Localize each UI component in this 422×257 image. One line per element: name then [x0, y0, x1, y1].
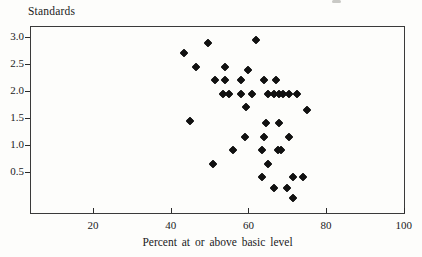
y-axis-tick-label: 1.0	[0, 138, 24, 150]
x-axis-tick-label: 100	[389, 219, 419, 231]
x-axis-tick-label: 80	[311, 219, 341, 231]
y-axis-tick-label: 2.5	[0, 57, 24, 69]
page-crop-artifact	[332, 0, 341, 3]
y-axis-tick	[25, 64, 30, 65]
x-axis-tick	[171, 208, 172, 213]
x-axis-tick-label: 40	[156, 219, 186, 231]
y-axis-title: Standards	[28, 5, 75, 17]
y-axis-tick	[25, 118, 30, 119]
x-axis-tick	[404, 208, 405, 213]
plot-area	[30, 26, 405, 214]
scatter-plot-figure: Standards Percent at or above basic leve…	[0, 0, 422, 257]
x-axis-tick-label: 60	[233, 219, 263, 231]
y-axis-tick-label: 3.0	[0, 30, 24, 42]
y-axis-tick	[25, 145, 30, 146]
y-axis-tick-label: 0.5	[0, 165, 24, 177]
y-axis-tick-label: 1.5	[0, 111, 24, 123]
y-axis-tick	[25, 172, 30, 173]
x-axis-tick	[248, 208, 249, 213]
y-axis-tick	[25, 37, 30, 38]
x-axis-title: Percent at or above basic level	[30, 236, 405, 248]
x-axis-tick-label: 20	[78, 219, 108, 231]
y-axis-tick-label: 2.0	[0, 84, 24, 96]
y-axis-tick	[25, 91, 30, 92]
x-axis-tick	[93, 208, 94, 213]
x-axis-tick	[326, 208, 327, 213]
